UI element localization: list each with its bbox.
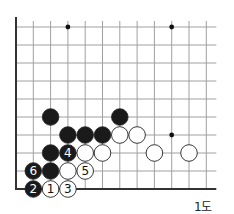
black-stone-4: 4 xyxy=(60,145,77,162)
black-stone xyxy=(42,163,59,180)
white-stone xyxy=(112,127,129,144)
black-stone xyxy=(60,127,77,144)
grid-lines xyxy=(15,17,216,190)
black-stone xyxy=(42,109,59,126)
move-number-label: 4 xyxy=(64,146,72,160)
white-stone xyxy=(146,145,163,162)
white-stone xyxy=(129,127,146,144)
white-stone xyxy=(94,145,111,162)
white-stone-3: 3 xyxy=(60,181,77,198)
white-stone xyxy=(60,163,77,180)
black-stone xyxy=(42,145,59,162)
black-stone-6: 6 xyxy=(25,163,42,180)
move-number-label: 3 xyxy=(64,182,72,196)
move-number-label: 2 xyxy=(29,182,37,196)
black-stone xyxy=(112,109,129,126)
move-number-label: 6 xyxy=(29,164,37,178)
go-board: 465213 xyxy=(0,0,234,214)
diagram-caption: 1도 xyxy=(194,197,212,214)
hoshi-point-icon xyxy=(169,25,174,30)
hoshi-point-icon xyxy=(66,25,71,30)
white-stone xyxy=(77,145,94,162)
move-number-label: 1 xyxy=(47,182,55,196)
black-stone xyxy=(77,127,94,144)
black-stone xyxy=(94,127,111,144)
hoshi-point-icon xyxy=(169,133,174,138)
white-stone-5: 5 xyxy=(77,163,94,180)
white-stone-1: 1 xyxy=(42,181,59,198)
black-stone-2: 2 xyxy=(25,181,42,198)
white-stone xyxy=(181,145,198,162)
move-number-label: 5 xyxy=(81,164,89,178)
